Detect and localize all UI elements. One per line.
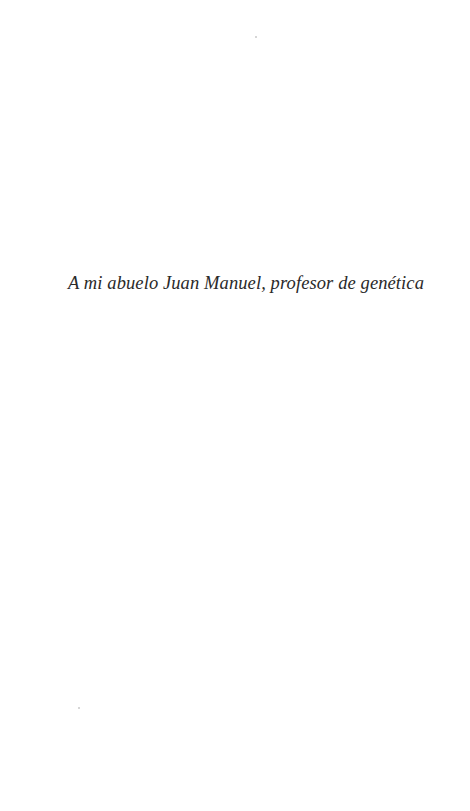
paper-speck — [78, 707, 80, 709]
book-page: A mi abuelo Juan Manuel, profesor de gen… — [0, 0, 470, 811]
dedication-text: A mi abuelo Juan Manuel, profesor de gen… — [68, 271, 424, 295]
paper-speck — [255, 36, 257, 38]
